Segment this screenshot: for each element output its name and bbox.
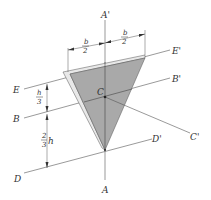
arrow-icon <box>46 84 49 90</box>
label-d: D <box>13 174 21 184</box>
diagram-canvas: A' A E E' B B' C C' D D' b 2 b 2 h 3 2 3… <box>0 0 211 200</box>
dim-lower-suffix: h <box>48 136 54 146</box>
arrow-icon <box>68 48 74 51</box>
arrow-icon <box>105 40 111 43</box>
label-a-prime: A' <box>100 10 110 20</box>
arrow-icon <box>99 43 105 46</box>
label-b: B <box>12 114 20 124</box>
label-a: A <box>101 185 109 195</box>
label-d-prime: D' <box>151 134 162 144</box>
dim-top-left-den: 2 <box>82 47 88 55</box>
dim-top-left-num: b <box>84 38 89 46</box>
label-e: E <box>12 85 20 95</box>
dim-lower-num: 2 <box>41 132 47 140</box>
dim-upper-num: h <box>37 89 42 97</box>
label-c-prime: C' <box>190 132 199 142</box>
dim-upper-den: 3 <box>37 98 42 106</box>
label-e-prime: E' <box>171 46 181 56</box>
label-c: C <box>97 87 104 97</box>
dim-top-right-den: 2 <box>121 38 127 46</box>
dim-top-right-num: b <box>123 29 128 37</box>
label-b-prime: B' <box>171 74 181 84</box>
arrow-icon <box>46 114 49 120</box>
triangle-centroid-diagram: A' A E E' B B' C C' D D' b 2 b 2 h 3 2 3… <box>0 0 211 200</box>
dim-lower-den: 3 <box>42 141 47 149</box>
apex-point <box>104 149 106 151</box>
centroid-point <box>104 96 107 99</box>
